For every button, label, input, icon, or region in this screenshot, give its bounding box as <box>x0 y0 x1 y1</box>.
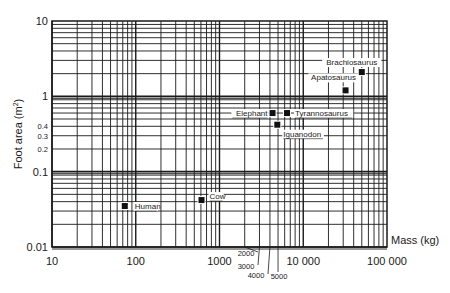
x-axis-label: Mass (kg) <box>391 234 439 246</box>
point-marker <box>199 197 205 203</box>
x-tick-label: 1000 <box>207 255 231 267</box>
point-label: Tyrannosaurus <box>295 109 348 118</box>
y-tick-label: 0.01 <box>27 241 48 253</box>
point-marker <box>284 110 290 116</box>
point-marker <box>270 110 276 116</box>
tick-labels: 10100100010 000100 0001010.40.30.20.10.0… <box>27 15 407 281</box>
callout-leader <box>258 247 259 265</box>
point-label: Iguanodon <box>283 130 321 139</box>
y-tick-label: 1 <box>42 90 48 102</box>
y-tick-label: 0.2 <box>38 145 48 154</box>
x-minor-callout-label: 4000 <box>248 271 265 280</box>
y-tick-label: 0.3 <box>38 132 48 141</box>
x-minor-callout-label: 2000 <box>238 249 255 258</box>
x-tick-label: 10 <box>46 255 58 267</box>
y-tick-label: 10 <box>36 15 48 27</box>
x-minor-callout-label: 5000 <box>271 272 288 281</box>
point-label: Elephant <box>236 109 268 118</box>
x-tick-label: 100 000 <box>367 255 407 267</box>
point-marker <box>274 122 280 128</box>
point-label: Cow <box>210 192 226 201</box>
grid <box>52 21 387 249</box>
y-tick-label: 0.1 <box>33 166 48 178</box>
point-marker <box>343 87 349 93</box>
x-tick-label: 100 <box>127 255 145 267</box>
x-tick-label: 10 000 <box>286 255 320 267</box>
callout-leader <box>268 247 270 274</box>
point-marker <box>122 203 128 209</box>
x-minor-callout-label: 3000 <box>238 262 255 271</box>
y-tick-label: 0.4 <box>38 122 48 131</box>
point-label: Apatosaurus <box>311 73 356 82</box>
y-axis-label: Foot area (m2) <box>12 99 24 170</box>
point-label: Human <box>135 202 161 211</box>
point-marker <box>359 69 365 75</box>
foot-area-vs-mass-chart: 10100100010 000100 0001010.40.30.20.10.0… <box>0 0 450 293</box>
point-label: Brachiosaurus <box>326 58 377 67</box>
